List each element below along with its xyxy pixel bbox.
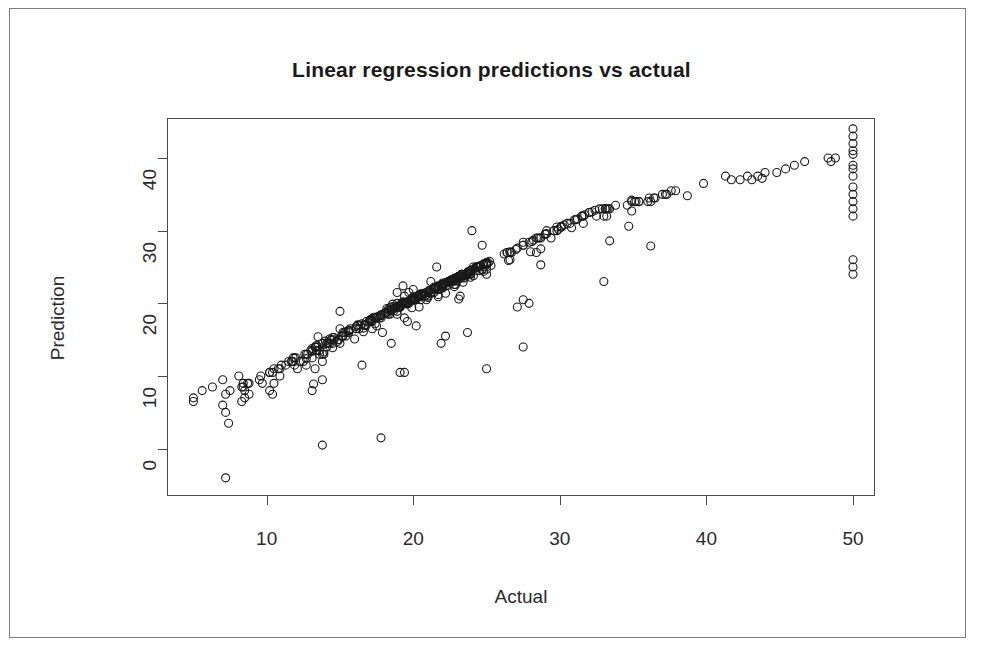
y-tick-label: 20 — [139, 314, 161, 335]
x-tick-label: 20 — [383, 528, 443, 550]
x-axis-label: Actual — [167, 586, 875, 608]
figure-root: Linear regression predictions vs actual … — [0, 0, 983, 670]
y-tick-label: 10 — [139, 387, 161, 408]
x-tick-mark — [560, 496, 561, 505]
x-tick-mark — [706, 496, 707, 505]
x-tick-label: 50 — [823, 528, 883, 550]
y-tick-mark — [158, 303, 167, 304]
x-tick-label: 40 — [676, 528, 736, 550]
y-tick-label: 40 — [139, 169, 161, 190]
x-tick-label: 30 — [530, 528, 590, 550]
plot-panel-box — [167, 118, 875, 496]
page-title: Linear regression predictions vs actual — [0, 58, 983, 82]
y-tick-label: 30 — [139, 242, 161, 263]
x-tick-mark — [267, 496, 268, 505]
y-tick-mark — [158, 376, 167, 377]
y-axis-label: Prediction — [47, 238, 69, 398]
x-tick-label: 10 — [237, 528, 297, 550]
y-tick-mark — [158, 231, 167, 232]
y-tick-mark — [158, 158, 167, 159]
x-tick-mark — [853, 496, 854, 505]
x-tick-mark — [413, 496, 414, 505]
y-tick-mark — [158, 449, 167, 450]
y-tick-label: 0 — [139, 460, 161, 471]
